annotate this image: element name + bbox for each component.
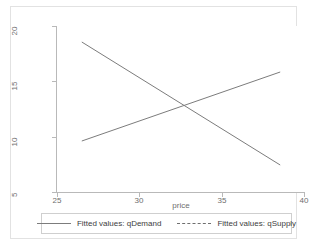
legend-key-dashed-line-icon bbox=[177, 219, 211, 228]
legend-label-qdemand: Fitted values: qDemand bbox=[77, 219, 162, 229]
series-line-qsupply bbox=[82, 72, 280, 141]
stata-graph-figure: 20 15 10 5 25 30 35 40 price Fit bbox=[0, 0, 318, 247]
chart-legend: Fitted values: qDemand Fitted values: qS… bbox=[41, 213, 292, 234]
y-tick-label-5: 5 bbox=[10, 193, 19, 223]
legend-label-qsupply: Fitted values: qSupply bbox=[217, 219, 296, 229]
series-line-qdemand bbox=[82, 42, 280, 165]
legend-item-qdemand[interactable]: Fitted values: qDemand bbox=[37, 214, 162, 233]
y-tick-mark bbox=[52, 81, 56, 82]
x-axis-title: price bbox=[57, 201, 305, 210]
y-tick-label-20: 20 bbox=[10, 27, 19, 57]
y-tick-mark bbox=[52, 137, 56, 138]
y-tick-label-10: 10 bbox=[10, 138, 19, 168]
legend-key-solid-line-icon bbox=[37, 219, 71, 228]
plot-lines-svg bbox=[57, 26, 305, 192]
x-axis-line bbox=[56, 192, 305, 193]
plot-region bbox=[57, 26, 305, 192]
y-tick-label-15: 15 bbox=[10, 82, 19, 112]
graph-frame: 20 15 10 5 25 30 35 40 price Fit bbox=[10, 6, 297, 239]
y-tick-mark bbox=[52, 26, 56, 27]
legend-item-qsupply[interactable]: Fitted values: qSupply bbox=[177, 214, 296, 233]
